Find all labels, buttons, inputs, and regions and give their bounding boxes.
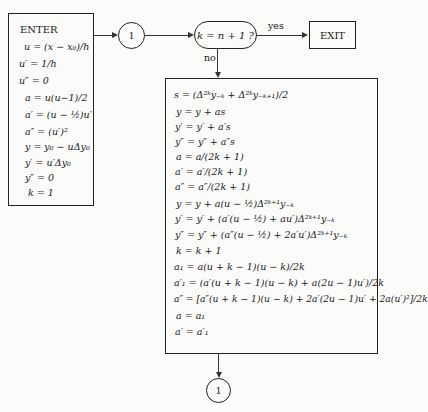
no-label: no xyxy=(204,52,216,63)
main-line-5: a = a/(2k + 1) xyxy=(176,152,244,162)
main-line-16: a′ = a′₁ xyxy=(175,327,208,337)
main-line-14: a″ = [a″(u + k − 1)(u − k) + 2a′(2u − 1)… xyxy=(174,294,428,303)
flow-line-connector-to-decision xyxy=(145,35,192,36)
main-line-7: a″ = a″/(2k + 1) xyxy=(175,182,250,192)
enter-line-6: a″ = (u′)² xyxy=(25,127,68,137)
connector-top: 1 xyxy=(118,22,145,49)
main-line-15: a = a₁ xyxy=(176,311,205,321)
main-line-13: a′₁ = (a′(u + k − 1)(u − k) + a(2u − 1)u… xyxy=(174,278,384,288)
main-line-4: y″ = y″ + a″s xyxy=(175,137,235,147)
decision-node: k = n + 1 ? xyxy=(194,21,257,49)
main-line-1: s = (Δ²ᵏy₋ₖ + Δ²ᵏy₋ₖ₊₁)/2 xyxy=(174,90,288,100)
main-line-12: a₁ = a(u + k − 1)(u − k)/2k xyxy=(174,262,305,272)
enter-line-7: y = y₀ − uΔy₀ xyxy=(25,142,90,152)
flow-line-to-bottom-connector xyxy=(218,354,219,374)
main-line-2: y = y + as xyxy=(176,107,225,117)
main-line-10: y″ = y″ + (a″(u − ½) + 2a′u′)Δ²ᵏ⁺¹y₋ₖ xyxy=(175,230,347,240)
connector-top-label: 1 xyxy=(129,31,135,41)
main-line-6: a′ = a′/(2k + 1) xyxy=(175,167,247,177)
enter-line-3: u″ = 0 xyxy=(19,76,49,86)
enter-line-8: y′ = u′Δy₀ xyxy=(25,158,71,168)
flow-line-no xyxy=(217,49,218,73)
enter-line-5: a′ = (u − ½)u′ xyxy=(25,110,92,120)
enter-line-1: u = (x − x₀)/h xyxy=(24,42,89,52)
decision-label: k = n + 1 ? xyxy=(197,30,254,41)
exit-label: EXIT xyxy=(320,30,345,41)
main-line-11: k = k + 1 xyxy=(176,246,222,256)
main-line-8: y = y + a(u − ½)Δ²ᵏ⁺¹y₋ₖ xyxy=(176,199,294,209)
enter-line-4: a = u(u−1)/2 xyxy=(25,93,88,103)
connector-bottom-label: 1 xyxy=(216,386,222,396)
main-line-3: y′ = y′ + a′s xyxy=(175,122,231,132)
flow-line-yes xyxy=(257,35,305,36)
enter-line-10: k = 1 xyxy=(28,188,54,198)
enter-title: ENTER xyxy=(20,25,58,35)
exit-box: EXIT xyxy=(309,21,356,49)
arrow-head-icon xyxy=(302,32,308,38)
yes-label: yes xyxy=(268,20,284,31)
main-line-9: y′ = y′ + (a′(u − ½) + au′)Δ²ᵏ⁺¹y₋ₖ xyxy=(175,214,335,224)
connector-bottom: 1 xyxy=(206,378,231,403)
enter-line-9: y″ = 0 xyxy=(25,173,54,183)
enter-line-2: u′ = 1/h xyxy=(19,59,57,69)
